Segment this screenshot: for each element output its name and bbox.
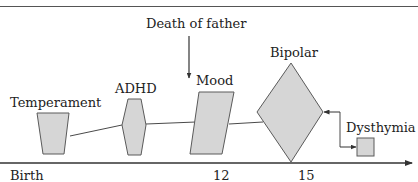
axis-label-12: 12 [213,168,230,182]
event-label: Death of father [146,16,247,31]
mood-shape [190,92,234,154]
edge-adhd-mood [146,122,196,124]
axis-label-15: 15 [298,168,315,182]
axis-label-birth: Birth [10,168,44,182]
dysthymia-label: Dysthymia [346,120,416,135]
adhd-label: ADHD [114,81,157,96]
temperament-label: Temperament [10,95,102,110]
temperament-shape [37,113,69,154]
adhd-shape [122,99,146,155]
bipolar-label: Bipolar [270,45,319,60]
bipolar-shape [257,63,323,162]
edge-temperament-adhd [70,125,122,136]
edge-mood-bipolar [229,122,263,124]
dysthymia-shape [357,138,374,156]
timeline-diagram: Temperament ADHD Death of father Mood Bi… [0,0,418,182]
diagram-canvas: Temperament ADHD Death of father Mood Bi… [0,0,418,182]
mood-label: Mood [196,73,233,88]
